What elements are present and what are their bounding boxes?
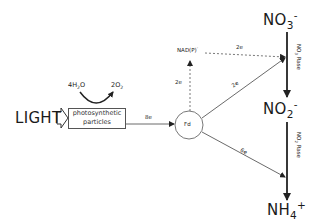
particles-line1: photosynthetic [69, 109, 125, 118]
nitrite-label: NO2- [263, 102, 298, 117]
edge-label-nadp-no3: 2e [236, 45, 243, 51]
nitrate-label: NO3- [263, 13, 298, 28]
oxygen-product-label: 2O2 [111, 82, 123, 89]
nitrate-reductase-label: NO3 Rase [296, 44, 302, 70]
ammonium-label: NH4+ [267, 203, 306, 218]
edge-nadp-no3 [205, 53, 285, 57]
water-reactant-label: 4H2O [68, 82, 85, 89]
nitrite-reductase-label: NO2 Rase [296, 132, 302, 158]
photosynthetic-particles-box: photosynthetic particles [68, 108, 126, 129]
nadp-label: NAD(P)- [177, 48, 198, 54]
water-split-arrow [80, 92, 113, 103]
particles-line2: particles [69, 118, 125, 127]
edge-label-fd-nadp: 2e [175, 80, 182, 86]
light-label: LIGHT [15, 111, 61, 126]
edge-label-8e: 8e [145, 115, 152, 121]
fd-label: Fd [184, 122, 191, 128]
